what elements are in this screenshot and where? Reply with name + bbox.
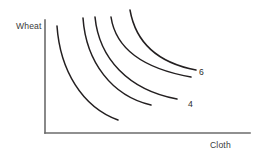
chart-canvas: Wheat Cloth 6 4 bbox=[0, 0, 260, 151]
indifference-curve-figure: Wheat Cloth 6 4 bbox=[0, 0, 260, 151]
indifference-curve-5 bbox=[130, 10, 196, 70]
curve-label-4: 4 bbox=[188, 99, 193, 109]
indifference-curve-1 bbox=[57, 26, 118, 120]
curve-label-6: 6 bbox=[199, 67, 204, 77]
y-axis-title: Wheat bbox=[16, 21, 42, 31]
indifference-curve-4 bbox=[111, 17, 191, 77]
x-axis-title: Cloth bbox=[210, 140, 231, 150]
indifference-curve-2 bbox=[83, 18, 151, 105]
